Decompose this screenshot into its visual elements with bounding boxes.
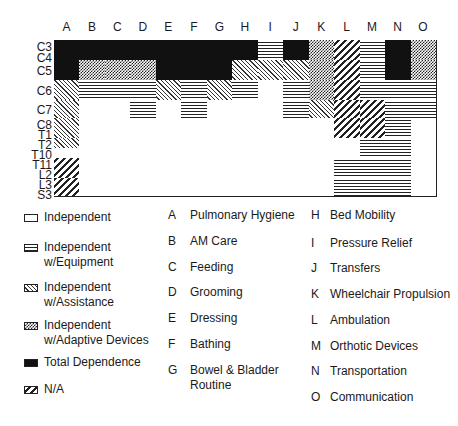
grid-cell (360, 178, 386, 197)
key-letter-m: M (311, 339, 321, 353)
grid-cell (207, 178, 233, 197)
grid-cell (360, 80, 386, 101)
grid-cell (232, 158, 258, 179)
column-header-d: D (130, 20, 155, 34)
grid-cell (385, 118, 411, 139)
grid-cell (207, 80, 233, 101)
grid-cell (283, 158, 309, 179)
grid-cell (54, 178, 80, 197)
grid-cell (411, 158, 437, 179)
grid-cell (79, 118, 105, 139)
grid-cell (232, 60, 258, 81)
grid-cell (334, 40, 360, 61)
key-activity-label: Orthotic Devices (330, 339, 418, 354)
function-level-grid (54, 40, 436, 196)
grid-cell (360, 158, 386, 179)
legend-label: Independent (44, 318, 111, 333)
key-activity-label: Bed Mobility (330, 208, 395, 223)
grid-cell (54, 158, 80, 179)
grid-cell (283, 80, 309, 101)
grid-cell (360, 40, 386, 61)
legend-label: Independent (44, 280, 111, 295)
legend-swatch-white-icon (24, 214, 38, 222)
grid-cell (258, 118, 284, 139)
grid-cell (232, 178, 258, 197)
grid-cell (181, 80, 207, 101)
grid-cell (156, 40, 182, 61)
key-activity-label: Dressing (190, 311, 237, 326)
row-label-c4: C4 (18, 53, 52, 63)
column-header-k: K (309, 20, 334, 34)
grid-cell (156, 100, 182, 119)
grid-cell (79, 60, 105, 81)
column-header-g: G (207, 20, 232, 34)
column-header-a: A (54, 20, 79, 34)
grid-cell (156, 60, 182, 81)
grid-cell (309, 178, 335, 197)
grid-cell (207, 138, 233, 159)
grid-cell (105, 118, 131, 139)
grid-cell (105, 80, 131, 101)
grid-cell (334, 178, 360, 197)
grid-cell (181, 138, 207, 159)
grid-cell (130, 158, 156, 179)
grid-cell (130, 40, 156, 61)
grid-cell (360, 60, 386, 81)
column-header-h: H (232, 20, 257, 34)
grid-cell (411, 40, 437, 61)
key-activity-label: Bathing (190, 337, 231, 352)
grid-cell (156, 138, 182, 159)
key-letter-f: F (168, 337, 175, 351)
key-letter-h: H (311, 208, 320, 222)
column-header-e: E (156, 20, 181, 34)
grid-cell (54, 40, 80, 61)
legend-label: Independent (44, 240, 111, 255)
grid-cell (207, 118, 233, 139)
grid-cell (283, 178, 309, 197)
grid-cell (105, 40, 131, 61)
key-activity-label: Transportation (330, 364, 407, 379)
column-header-m: M (360, 20, 385, 34)
grid-cell (54, 118, 80, 139)
grid-cell (283, 138, 309, 159)
column-header-f: F (181, 20, 206, 34)
grid-cell (232, 100, 258, 119)
column-header-l: L (334, 20, 359, 34)
legend-label: N/A (44, 382, 64, 397)
grid-cell (79, 138, 105, 159)
grid-cell (130, 60, 156, 81)
grid-cell (79, 178, 105, 197)
column-header-n: N (385, 20, 410, 34)
grid-cell (105, 158, 131, 179)
grid-cell (207, 40, 233, 61)
key-letter-c: C (168, 260, 177, 274)
grid-cell (207, 158, 233, 179)
grid-cell (385, 158, 411, 179)
grid-cell (156, 178, 182, 197)
key-activity-label: AM Care (190, 234, 237, 249)
grid-cell (309, 80, 335, 101)
grid-cell (283, 100, 309, 119)
grid-cell (309, 118, 335, 139)
grid-cell (385, 178, 411, 197)
grid-cell (54, 80, 80, 101)
legend-label-line2: w/Assistance (44, 295, 114, 310)
grid-cell (232, 118, 258, 139)
key-letter-j: J (311, 261, 317, 275)
key-letter-k: K (311, 287, 319, 301)
row-label-c6: C6 (18, 86, 52, 96)
grid-cell (334, 100, 360, 119)
grid-cell (105, 138, 131, 159)
grid-cell (181, 118, 207, 139)
grid-cell (130, 178, 156, 197)
grid-cell (385, 60, 411, 81)
key-letter-b: B (168, 234, 176, 248)
grid-cell (181, 60, 207, 81)
grid-cell (309, 158, 335, 179)
grid-cell (411, 100, 437, 119)
grid-cell (79, 100, 105, 119)
grid-cell (309, 60, 335, 81)
grid-cell (385, 40, 411, 61)
grid-cell (258, 80, 284, 101)
grid-cell (105, 100, 131, 119)
